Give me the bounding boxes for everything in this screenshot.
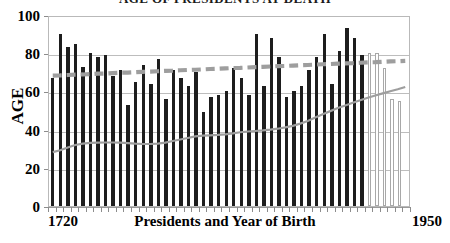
x-tick-mark [176,207,177,212]
x-tick-mark [56,207,57,212]
x-tick-mark [350,207,351,212]
x-tick-mark [161,207,162,212]
x-tick-mark [237,207,238,212]
x-tick-mark [86,207,87,212]
x-tick-mark [101,207,102,212]
x-tick-mark [402,207,403,212]
chart-title: AGE OF PRESIDENTS AT DEATH [0,0,450,3]
x-tick-mark [63,207,64,212]
x-tick-mark [116,207,117,212]
trend-lines [49,17,409,206]
x-tick-mark [372,207,373,212]
x-tick-mark [304,207,305,212]
x-tick-mark [387,207,388,212]
x-tick-mark [184,207,185,212]
x-tick-mark [297,207,298,212]
x-tick-mark [274,207,275,212]
x-tick-mark [214,207,215,212]
x-tick-mark [320,207,321,212]
x-tick-mark [282,207,283,212]
y-tick-label-80: 80 [6,46,40,63]
life-expectancy-trend-line [53,87,406,152]
x-tick-mark [154,207,155,212]
x-tick-mark [191,207,192,212]
x-tick-mark [410,207,411,212]
x-tick-mark [93,207,94,212]
x-tick-mark [123,207,124,212]
chart-root: AGE OF PRESIDENTS AT DEATH 100 80 60 40 … [0,0,450,243]
x-tick-mark [395,207,396,212]
x-tick-label-right: 1950 [412,213,442,230]
x-tick-mark [327,207,328,212]
x-tick-mark [139,207,140,212]
y-tick-label-100: 100 [6,8,40,25]
x-tick-mark [78,207,79,212]
x-tick-mark [380,207,381,212]
x-tick-mark [131,207,132,212]
x-axis-title: Presidents and Year of Birth [0,213,450,230]
x-tick-mark [259,207,260,212]
x-tick-mark [71,207,72,212]
x-tick-mark [244,207,245,212]
x-tick-mark [342,207,343,212]
x-tick-mark [169,207,170,212]
x-tick-mark [199,207,200,212]
x-tick-mark [108,207,109,212]
x-tick-mark [146,207,147,212]
y-tick-label-20: 20 [6,160,40,177]
x-tick-mark [267,207,268,212]
x-tick-mark [289,207,290,212]
x-tick-mark [357,207,358,212]
x-tick-mark [312,207,313,212]
age-at-death-trend-line [53,61,406,76]
plot-area [48,16,410,207]
y-axis-title: AGE [8,76,28,136]
x-tick-mark [335,207,336,212]
x-tick-mark [229,207,230,212]
x-tick-mark [221,207,222,212]
x-tick-mark [48,207,49,212]
x-tick-mark [365,207,366,212]
x-tick-mark [206,207,207,212]
x-tick-mark [252,207,253,212]
